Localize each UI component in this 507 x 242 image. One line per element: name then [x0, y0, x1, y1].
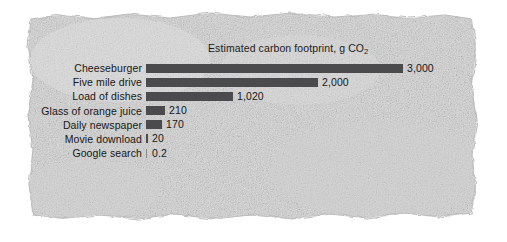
category-label-cheeseburger: Cheeseburger	[74, 62, 142, 75]
chart-title-subscript: 2	[364, 47, 368, 56]
chart-row: Movie download 20	[0, 133, 507, 147]
category-label-daily-newspaper: Daily newspaper	[63, 119, 142, 132]
chart-title: Estimated carbon footprint, g CO2	[208, 42, 368, 56]
bar-load-of-dishes	[146, 92, 233, 101]
category-label-glass-of-orange-juice: Glass of orange juice	[41, 105, 142, 118]
chart-row: Glass of orange juice 210	[0, 105, 507, 119]
bar-value-glass-of-orange-juice: 210	[169, 104, 187, 117]
category-label-five-mile-drive: Five mile drive	[73, 76, 142, 89]
bar-google-search	[146, 149, 147, 158]
bar-value-daily-newspaper: 170	[166, 118, 184, 131]
bar-value-google-search: 0.2	[152, 147, 167, 160]
bar-value-load-of-dishes: 1,020	[237, 90, 264, 103]
screenshot-root: Estimated carbon footprint, g CO2 Cheese…	[0, 0, 507, 242]
chart-row: Load of dishes 1,020	[0, 90, 507, 104]
chart-row: Cheeseburger 3,000	[0, 62, 507, 76]
bar-value-cheeseburger: 3,000	[407, 62, 434, 75]
chart-row: Google search 0.2	[0, 147, 507, 161]
category-label-movie-download: Movie download	[65, 133, 142, 146]
chart-plot-area: Cheeseburger 3,000 Five mile drive 2,000…	[0, 62, 507, 161]
bar-five-mile-drive	[146, 78, 318, 87]
chart-title-text: Estimated carbon footprint, g CO	[208, 42, 364, 54]
bar-value-movie-download: 20	[152, 132, 164, 145]
carbon-footprint-bar-chart: Estimated carbon footprint, g CO2 Cheese…	[0, 0, 507, 242]
bar-daily-newspaper	[146, 120, 162, 129]
category-label-load-of-dishes: Load of dishes	[72, 90, 142, 103]
chart-row: Five mile drive 2,000	[0, 76, 507, 90]
bar-value-five-mile-drive: 2,000	[322, 76, 349, 89]
bar-glass-of-orange-juice	[146, 106, 165, 115]
bar-movie-download	[146, 134, 148, 143]
category-label-google-search: Google search	[72, 147, 142, 160]
chart-row: Daily newspaper 170	[0, 119, 507, 133]
bar-cheeseburger	[146, 64, 403, 73]
